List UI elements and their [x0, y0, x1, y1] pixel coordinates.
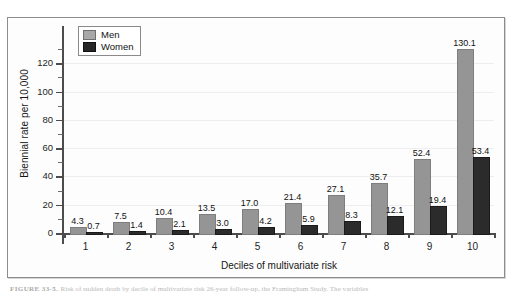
- legend-label: Men: [101, 30, 119, 40]
- bar-women-decile-1: [86, 232, 103, 236]
- figure-frame: Biennial rate per 10,000 020406080100120…: [7, 17, 505, 278]
- x-tick-mark: [365, 233, 367, 238]
- x-tick-label: 10: [467, 241, 478, 252]
- bar-value-label: 13.5: [198, 203, 216, 213]
- bar-men-decile-3: [156, 218, 173, 235]
- x-tick-mark: [107, 233, 109, 238]
- gridline: [64, 120, 494, 121]
- legend-item-men[interactable]: Men: [83, 30, 134, 40]
- x-tick-label: 9: [427, 241, 433, 252]
- x-tick-mark: [322, 233, 324, 238]
- y-tick-mark: [56, 120, 63, 122]
- y-tick-label: 40: [8, 171, 53, 180]
- y-tick-label: 120: [8, 58, 53, 67]
- bar-women-decile-10: [473, 157, 490, 235]
- x-tick-label: 4: [212, 241, 218, 252]
- x-tick-label: 7: [341, 241, 347, 252]
- bar-women-decile-4: [215, 229, 232, 235]
- bar-women-decile-6: [301, 225, 318, 235]
- legend-label: Women: [101, 42, 134, 52]
- y-tick-label: 100: [8, 87, 53, 96]
- bar-men-decile-1: [70, 227, 87, 235]
- bar-women-decile-5: [258, 227, 275, 235]
- y-tick-label: 80: [8, 115, 53, 124]
- y-tick-mark: [56, 92, 63, 94]
- bar-value-label: 53.4: [472, 146, 490, 156]
- y-tick-label: 60: [8, 143, 53, 152]
- legend-swatch-icon: [83, 42, 96, 52]
- bar-men-decile-4: [199, 214, 216, 235]
- y-tick-label: 20: [8, 200, 53, 209]
- gridline: [64, 63, 494, 64]
- bar-value-label: 10.4: [155, 207, 173, 217]
- bar-value-label: 35.7: [370, 172, 388, 182]
- bar-men-decile-10: [457, 49, 474, 235]
- y-tick-minor: [58, 162, 63, 163]
- bar-value-label: 130.1: [453, 38, 476, 48]
- y-tick-minor: [58, 49, 63, 50]
- y-tick-minor: [58, 77, 63, 78]
- legend-item-women[interactable]: Women: [83, 42, 134, 52]
- x-tick-mark: [193, 233, 195, 238]
- x-tick-label: 2: [126, 241, 132, 252]
- y-tick-mark: [56, 233, 63, 235]
- legend-swatch-icon: [83, 30, 96, 40]
- caption-figure-number: FIGURE 33-5.: [10, 285, 61, 293]
- bar-men-decile-5: [242, 209, 259, 235]
- bar-women-decile-2: [129, 231, 146, 235]
- bar-value-label: 5.9: [302, 214, 315, 224]
- figure-caption: FIGURE 33-5. Risk of sudden death by dec…: [10, 285, 505, 293]
- bar-men-decile-6: [285, 203, 302, 235]
- bar-women-decile-8: [387, 216, 404, 235]
- x-axis-label: Deciles of multivariate risk: [62, 260, 496, 271]
- bar-men-decile-2: [113, 222, 130, 235]
- bar-value-label: 52.4: [413, 148, 431, 158]
- y-tick-mark: [56, 205, 63, 207]
- gridline: [64, 92, 494, 93]
- bar-value-label: 19.4: [429, 195, 447, 205]
- bar-value-label: 27.1: [327, 184, 345, 194]
- y-tick-label: 0: [8, 228, 53, 237]
- y-tick-minor: [58, 134, 63, 135]
- bar-value-label: 4.3: [71, 216, 84, 226]
- x-tick-label: 5: [255, 241, 261, 252]
- caption-text: Risk of sudden death by decile of multiv…: [61, 285, 369, 293]
- y-tick-mark: [56, 63, 63, 65]
- y-tick-minor: [58, 191, 63, 192]
- bar-men-decile-7: [328, 195, 345, 235]
- x-tick-mark: [494, 233, 496, 238]
- x-tick-label: 3: [169, 241, 175, 252]
- y-tick-minor: [58, 219, 63, 220]
- bar-value-label: 4.2: [259, 216, 272, 226]
- y-tick-minor: [58, 106, 63, 107]
- x-tick-mark: [279, 233, 281, 238]
- x-tick-label: 8: [384, 241, 390, 252]
- plot-area: Biennial rate per 10,000 020406080100120…: [8, 18, 504, 277]
- y-axis-line: [62, 26, 64, 244]
- bar-value-label: 7.5: [114, 211, 127, 221]
- bar-value-label: 21.4: [284, 192, 302, 202]
- x-tick-label: 1: [83, 241, 89, 252]
- bar-women-decile-9: [430, 206, 447, 235]
- bar-value-label: 1.4: [130, 220, 143, 230]
- x-tick-mark: [451, 233, 453, 238]
- y-tick-mark: [56, 176, 63, 178]
- chart-legend: MenWomen: [78, 26, 141, 56]
- y-tick-mark: [56, 148, 63, 150]
- x-tick-mark: [150, 233, 152, 238]
- bar-value-label: 3.0: [216, 218, 229, 228]
- bar-value-label: 8.3: [345, 210, 358, 220]
- bar-women-decile-7: [344, 221, 361, 235]
- bar-value-label: 12.1: [386, 205, 404, 215]
- x-tick-mark: [236, 233, 238, 238]
- x-tick-mark: [408, 233, 410, 238]
- bar-women-decile-3: [172, 230, 189, 235]
- x-tick-label: 6: [298, 241, 304, 252]
- bar-value-label: 0.7: [87, 221, 100, 231]
- bar-value-label: 17.0: [241, 198, 259, 208]
- x-tick-mark: [64, 233, 66, 238]
- bar-value-label: 2.1: [173, 219, 186, 229]
